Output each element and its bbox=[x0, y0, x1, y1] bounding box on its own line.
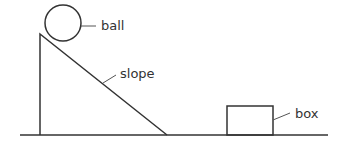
box-label: box bbox=[295, 106, 319, 121]
physics-diagram: ball slope box bbox=[0, 0, 343, 147]
ball bbox=[45, 5, 81, 41]
slope-ramp bbox=[40, 34, 167, 135]
box bbox=[227, 106, 273, 135]
box-leader-line bbox=[273, 113, 290, 120]
ball-label: ball bbox=[101, 18, 124, 33]
slope-leader-line bbox=[103, 75, 116, 83]
slope-label: slope bbox=[120, 66, 155, 81]
